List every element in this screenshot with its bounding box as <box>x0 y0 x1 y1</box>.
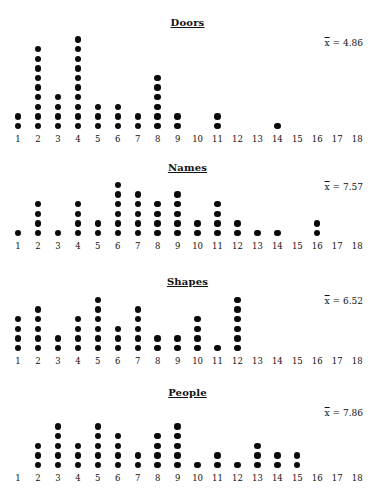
data-dot <box>154 443 160 449</box>
data-dot <box>234 462 240 468</box>
x-tick-label: 1 <box>8 473 28 483</box>
data-dot <box>254 443 260 449</box>
x-tick-label: 16 <box>307 473 327 483</box>
x-tick-label: 9 <box>168 473 188 483</box>
data-dot <box>194 462 200 468</box>
x-tick-label: 4 <box>68 473 88 483</box>
data-dot <box>95 433 101 439</box>
data-dot <box>95 452 101 458</box>
data-dot <box>75 443 81 449</box>
x-tick-label: 7 <box>128 473 148 483</box>
data-dot <box>115 443 121 449</box>
data-dot <box>55 423 61 429</box>
data-dot <box>154 433 160 439</box>
data-dot <box>174 452 180 458</box>
x-tick-label: 12 <box>227 473 247 483</box>
dot-plot-people: People x = 7.86 123456789101112131415161… <box>0 0 375 495</box>
data-dot <box>214 452 220 458</box>
data-dot <box>174 443 180 449</box>
x-tick-label: 2 <box>28 473 48 483</box>
chart-title: People <box>0 387 375 398</box>
x-tick-label: 11 <box>208 473 228 483</box>
data-dot <box>254 462 260 468</box>
data-dot <box>95 462 101 468</box>
x-tick-label: 5 <box>88 473 108 483</box>
data-dot <box>294 452 300 458</box>
x-tick-label: 18 <box>347 473 367 483</box>
x-tick-label: 3 <box>48 473 68 483</box>
data-dot <box>35 462 41 468</box>
data-dot <box>55 433 61 439</box>
data-dot <box>154 462 160 468</box>
data-dot <box>75 462 81 468</box>
x-tick-label: 8 <box>148 473 168 483</box>
data-dot <box>55 452 61 458</box>
data-dot <box>115 433 121 439</box>
data-dot <box>135 452 141 458</box>
data-dot <box>135 462 141 468</box>
data-dot <box>115 452 121 458</box>
x-tick-label: 17 <box>327 473 347 483</box>
data-dot <box>174 423 180 429</box>
x-tick-label: 14 <box>267 473 287 483</box>
data-dot <box>274 462 280 468</box>
data-dot <box>55 443 61 449</box>
mean-label: x = 7.86 <box>325 408 363 418</box>
data-dot <box>35 452 41 458</box>
data-dot <box>95 443 101 449</box>
data-dot <box>294 462 300 468</box>
data-dot <box>174 462 180 468</box>
data-dot <box>214 462 220 468</box>
data-dot <box>115 462 121 468</box>
data-dot <box>75 452 81 458</box>
x-tick-label: 10 <box>188 473 208 483</box>
data-dot <box>174 433 180 439</box>
x-tick-label: 13 <box>247 473 267 483</box>
data-dot <box>254 452 260 458</box>
x-tick-label: 15 <box>287 473 307 483</box>
data-dot <box>274 452 280 458</box>
x-tick-label: 6 <box>108 473 128 483</box>
data-dot <box>95 423 101 429</box>
data-dot <box>154 452 160 458</box>
data-dot <box>35 443 41 449</box>
data-dot <box>55 462 61 468</box>
